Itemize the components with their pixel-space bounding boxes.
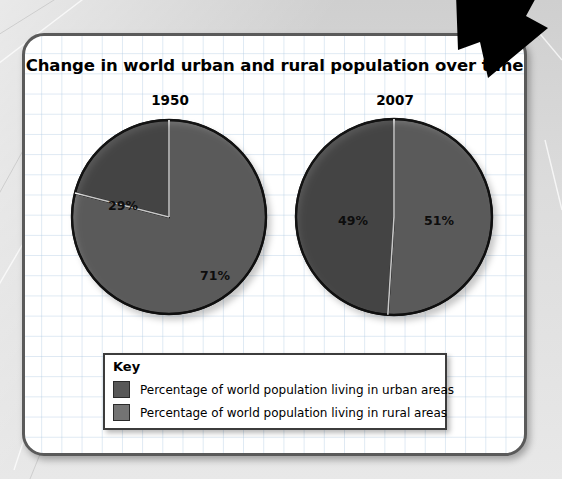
pie-year-label-2007: 2007 <box>335 92 455 108</box>
pie-shadow <box>299 123 497 321</box>
legend-label-urban: Percentage of world population living in… <box>140 383 454 397</box>
legend-key-box: Key Percentage of world population livin… <box>103 353 447 430</box>
pie-chart-2007: 49% 51% <box>295 118 493 316</box>
legend-label-rural: Percentage of world population living in… <box>140 406 447 420</box>
rural-swatch <box>113 404 130 421</box>
pie-year-label-1950: 1950 <box>110 92 230 108</box>
urban-swatch <box>113 381 130 398</box>
legend-title: Key <box>113 359 140 374</box>
chart-card: Change in world urban and rural populati… <box>22 33 527 456</box>
page-background: Change in world urban and rural populati… <box>0 0 562 479</box>
pie-shadow <box>75 124 271 320</box>
page-title: Change in world urban and rural populati… <box>25 56 524 75</box>
pie-chart-1950: 29% 71% <box>71 119 267 315</box>
legend-item-urban: Percentage of world population living in… <box>113 381 454 398</box>
legend-item-rural: Percentage of world population living in… <box>113 404 447 421</box>
